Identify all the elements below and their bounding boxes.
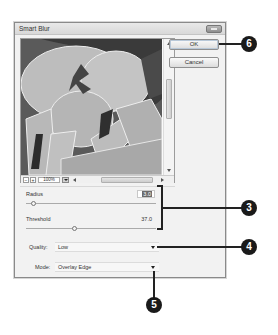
mode-label: Mode: — [35, 264, 50, 270]
zoom-in-button[interactable]: + — [30, 177, 36, 183]
vertical-scroll-thumb[interactable] — [166, 79, 172, 119]
callout-4: 4 — [241, 239, 257, 255]
threshold-slider-track[interactable] — [26, 228, 156, 229]
radius-label: Radius — [26, 191, 43, 197]
preview-image[interactable] — [21, 39, 162, 175]
mode-dropdown[interactable]: Overlay Edge — [55, 262, 159, 272]
zoom-dropdown-button[interactable] — [62, 177, 69, 183]
mode-value: Overlay Edge — [58, 264, 91, 271]
quality-dropdown[interactable]: Low — [55, 242, 159, 252]
zoom-out-button[interactable]: − — [23, 177, 29, 183]
radius-slider-thumb[interactable] — [31, 201, 36, 206]
callout-6-line — [219, 43, 243, 45]
threshold-slider-thumb[interactable] — [72, 226, 77, 231]
scroll-left-arrow-icon[interactable] — [73, 178, 76, 182]
scroll-down-arrow-icon[interactable] — [167, 169, 171, 172]
callout-5-line — [153, 271, 155, 299]
preview-panel: − + 100% — [20, 38, 175, 183]
quality-label: Quality: — [29, 244, 48, 250]
radius-value: 3.0 — [142, 191, 152, 197]
smart-blur-dialog: Smart Blur — [14, 22, 226, 278]
chevron-down-icon — [151, 266, 155, 269]
scroll-right-arrow-icon[interactable] — [161, 178, 164, 182]
threshold-value: 37.0 — [141, 216, 152, 222]
callout-5: 5 — [146, 297, 162, 313]
zoom-level-field[interactable]: 100% — [38, 177, 60, 183]
divider — [20, 186, 175, 187]
flower-preview-graphic — [21, 39, 162, 175]
quality-value: Low — [58, 244, 68, 251]
threshold-field[interactable]: 37.0 — [137, 215, 155, 223]
callout-6: 6 — [241, 36, 257, 52]
horizontal-scroll-thumb[interactable] — [101, 177, 153, 183]
title-bar[interactable]: Smart Blur — [15, 23, 225, 35]
horizontal-scrollbar[interactable] — [73, 177, 164, 183]
radius-field[interactable]: 3.0 — [137, 190, 155, 198]
chevron-down-icon — [151, 246, 155, 249]
zoom-bar: − + 100% — [21, 175, 174, 183]
ok-button[interactable]: OK — [169, 39, 219, 50]
radius-slider-track[interactable] — [26, 203, 156, 204]
callout-3-line — [163, 207, 243, 209]
cancel-button[interactable]: Cancel — [169, 57, 219, 68]
callout-3: 3 — [241, 200, 257, 216]
callout-4-line — [157, 246, 243, 248]
close-button[interactable] — [206, 25, 222, 33]
dialog-title: Smart Blur — [19, 25, 50, 32]
threshold-label: Threshold — [26, 216, 50, 222]
